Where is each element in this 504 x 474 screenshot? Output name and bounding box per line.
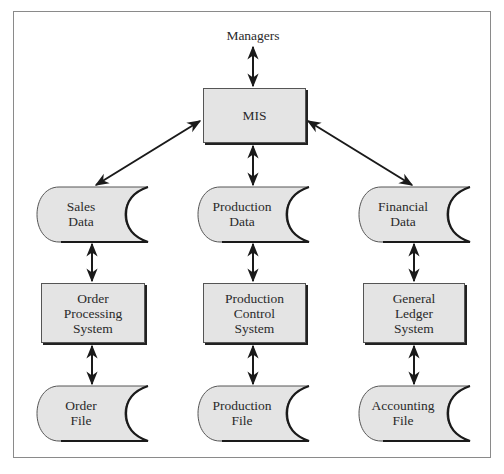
mis-box: MIS bbox=[203, 88, 306, 143]
production-file-label: Production File bbox=[201, 398, 283, 428]
general-ledger-system-box: General Ledger System bbox=[363, 283, 465, 343]
managers-label: Managers bbox=[203, 28, 303, 43]
sales-data-label: Sales Data bbox=[40, 199, 122, 229]
financial-data-label: Financial Data bbox=[362, 199, 444, 229]
production-control-system-box: Production Control System bbox=[203, 283, 306, 343]
mis-label: MIS bbox=[242, 108, 266, 123]
accounting-file-label: Accounting File bbox=[362, 398, 444, 428]
order-file-label: Order File bbox=[40, 398, 122, 428]
arrow-mis-financial-data bbox=[308, 121, 412, 185]
order-processing-system-box: Order Processing System bbox=[41, 283, 145, 343]
production-data-label: Production Data bbox=[201, 199, 283, 229]
arrow-mis-sales-data bbox=[96, 121, 200, 185]
